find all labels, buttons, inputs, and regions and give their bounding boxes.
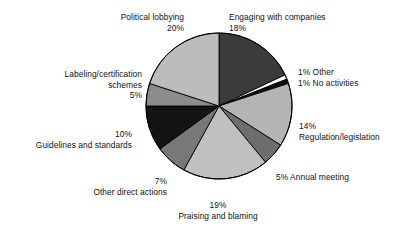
slice-label-no-activities-text: 1% No activities — [298, 78, 408, 89]
slice-label-praising-value: 19% — [152, 200, 284, 211]
pie-chart-figure: Political lobbying 20% Engaging with com… — [0, 0, 413, 235]
slice-label-praising-and-blaming: 19% Praising and blaming — [152, 200, 284, 221]
slice-label-labeling-name-line2: schemes — [22, 80, 142, 91]
slice-label-political-lobbying-name: Political lobbying — [74, 12, 184, 23]
slice-label-other-direct-value: 7% — [35, 176, 167, 187]
pie-slice-group — [146, 33, 292, 179]
slice-label-other: 1% Other — [298, 67, 398, 78]
slice-label-annual-meeting-text: 5% Annual meeting — [276, 172, 396, 183]
slice-label-regulation-legislation: 14% Regulation/legislation — [299, 121, 411, 142]
slice-label-regulation-name: Regulation/legislation — [299, 132, 411, 143]
slice-label-engaging-with-companies: Engaging with companies 18% — [229, 12, 379, 33]
slice-label-political-lobbying: Political lobbying 20% — [74, 12, 184, 33]
slice-label-praising-name: Praising and blaming — [152, 211, 284, 222]
slice-label-labeling-value: 5% — [22, 90, 142, 101]
slice-label-guidelines-and-standards: 10% Guidelines and standards — [8, 129, 132, 150]
slice-label-engaging-value: 18% — [229, 23, 379, 34]
slice-label-other-direct-actions: 7% Other direct actions — [35, 176, 167, 197]
slice-label-other-direct-name: Other direct actions — [35, 187, 167, 198]
slice-label-labeling-certification-schemes: Labeling/certification schemes 5% — [22, 69, 142, 101]
slice-label-engaging-name: Engaging with companies — [229, 12, 379, 23]
slice-label-political-lobbying-value: 20% — [74, 23, 184, 34]
slice-label-no-activities: 1% No activities — [298, 78, 408, 89]
slice-label-annual-meeting: 5% Annual meeting — [276, 172, 396, 183]
slice-label-labeling-name-line1: Labeling/certification — [22, 69, 142, 80]
slice-label-guidelines-name: Guidelines and standards — [8, 140, 132, 151]
slice-label-other-text: 1% Other — [298, 67, 398, 78]
slice-label-regulation-value: 14% — [299, 121, 411, 132]
slice-label-guidelines-value: 10% — [8, 129, 132, 140]
